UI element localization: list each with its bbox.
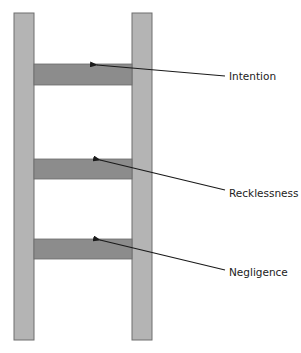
ladder-diagram: Intention Recklessness Negligence bbox=[0, 0, 301, 353]
rung-recklessness bbox=[34, 159, 132, 179]
label-negligence: Negligence bbox=[229, 266, 288, 278]
right-rail bbox=[132, 13, 152, 340]
rung-negligence bbox=[34, 239, 132, 259]
left-rail bbox=[14, 13, 34, 340]
label-recklessness: Recklessness bbox=[229, 187, 299, 199]
label-intention: Intention bbox=[229, 70, 276, 82]
